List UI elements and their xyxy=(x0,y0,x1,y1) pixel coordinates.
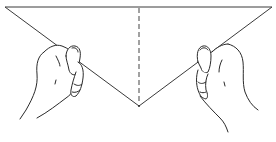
origami-diagram xyxy=(0,0,276,142)
right-fingers xyxy=(197,70,209,99)
fold-line-end-dot xyxy=(138,105,140,107)
diagram-canvas xyxy=(0,0,276,142)
left-hand xyxy=(20,45,83,119)
right-hand xyxy=(197,44,259,132)
right-knuckle-line xyxy=(219,60,225,86)
left-knuckle-line xyxy=(55,56,60,84)
right-thumb xyxy=(197,46,211,73)
